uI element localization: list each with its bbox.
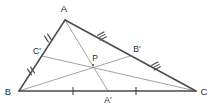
centroid-point-marker	[92, 64, 94, 66]
vertex-label-A: A	[61, 3, 68, 14]
vertex-label-C: C	[201, 86, 208, 97]
diagram-background	[0, 0, 212, 106]
triangle-medians-svg: A B C A' B' C' P	[0, 0, 212, 106]
vertex-label-B: B	[5, 86, 11, 97]
midpoint-label-B-prime: B'	[133, 44, 141, 54]
geometry-diagram: A B C A' B' C' P	[0, 0, 212, 106]
midpoint-label-A-prime: A'	[104, 95, 112, 105]
centroid-label-P: P	[92, 53, 98, 63]
midpoint-label-C-prime: C'	[33, 46, 41, 56]
